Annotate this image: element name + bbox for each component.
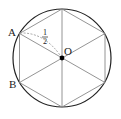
fraction-numerator: 1 (43, 28, 47, 37)
point-b-label: B (9, 78, 16, 90)
hexagon-in-circle-diagram: A B O 1 2 (0, 0, 121, 119)
point-a-label: A (8, 26, 16, 38)
fraction-denominator: 2 (43, 37, 47, 46)
point-o-label: O (64, 45, 72, 57)
